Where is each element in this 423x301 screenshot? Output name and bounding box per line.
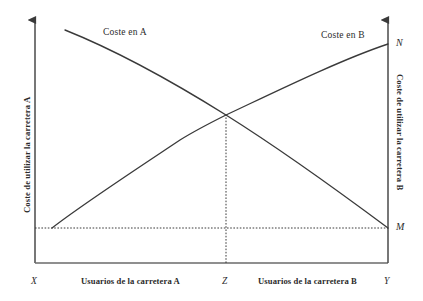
bottom-left-axis-title: Usuarios de la carretera A xyxy=(81,277,180,286)
cost-b-curve-label: Coste en B xyxy=(321,31,365,41)
y-end-label: Y xyxy=(384,277,389,287)
left-axis-title: Coste de utilizar la carretera A xyxy=(23,97,32,213)
figure-container: Coste en A Coste en B N M Coste de utili… xyxy=(0,0,423,301)
point-label-m: M xyxy=(396,222,404,232)
bottom-right-axis-title: Usuarios de la carretera B xyxy=(258,277,357,286)
right-axis-title: Coste de utilizar la carretera B xyxy=(395,74,404,190)
z-midpoint-label: Z xyxy=(222,277,227,287)
cost-b-curve xyxy=(52,44,388,228)
cost-curves-chart xyxy=(0,0,423,301)
x-origin-label: X xyxy=(31,277,37,287)
point-label-n: N xyxy=(396,38,403,48)
cost-a-curve-label: Coste en A xyxy=(103,28,147,38)
